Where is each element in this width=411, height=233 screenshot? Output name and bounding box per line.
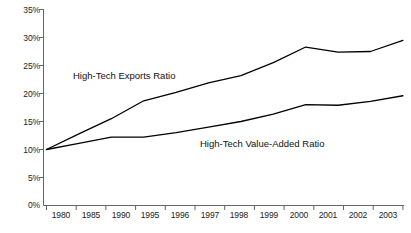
x-tick-label: 1999 <box>254 211 284 220</box>
x-tick-label: 2003 <box>373 211 403 220</box>
x-tick-label: 2000 <box>284 211 314 220</box>
series-label-exports-ratio: High-Tech Exports Ratio <box>73 70 175 81</box>
line-chart: 35% 30% 25% 20% 15% 10% 5% 0% <box>0 0 411 233</box>
x-tick-label: 1985 <box>76 211 106 220</box>
x-tick-label: 1996 <box>165 211 195 220</box>
x-tick-label: 2002 <box>343 211 373 220</box>
plot-area <box>0 0 411 233</box>
x-tick-label: 2001 <box>313 211 343 220</box>
x-tick-label: 1980 <box>46 211 76 220</box>
series-label-value-added-ratio: High-Tech Value-Added Ratio <box>200 138 324 149</box>
x-tick-label: 1995 <box>135 211 165 220</box>
y-axis-ticks <box>39 10 44 178</box>
x-tick-label: 1990 <box>106 211 136 220</box>
x-tick-label: 1997 <box>195 211 225 220</box>
x-tick-label: 1998 <box>224 211 254 220</box>
series-line-high-tech-exports-ratio <box>47 40 403 149</box>
axis-lines <box>44 9 405 206</box>
